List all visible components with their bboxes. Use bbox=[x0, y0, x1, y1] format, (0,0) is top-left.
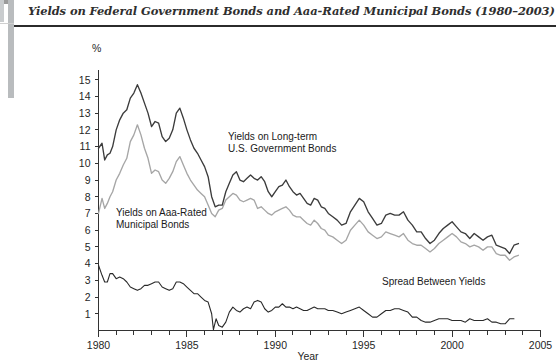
annotation-spread: Spread Between Yields bbox=[382, 276, 485, 287]
annotation-municipal-line1: Yields on Aaa-Rated bbox=[116, 207, 207, 218]
y-tick-label: 7 bbox=[85, 207, 91, 219]
y-axis-tick-labels: 123456789101112131415 bbox=[79, 74, 91, 320]
y-tick-label: 1 bbox=[85, 308, 91, 320]
chart-plot-area: 123456789101112131415 198019851990199520… bbox=[0, 0, 556, 364]
y-tick-label: 13 bbox=[79, 107, 91, 119]
x-tick-label: 2000 bbox=[440, 339, 464, 351]
y-tick-label: 9 bbox=[85, 174, 91, 186]
y-axis-unit-label: % bbox=[92, 42, 101, 54]
y-tick-label: 11 bbox=[80, 140, 91, 152]
y-tick-label: 12 bbox=[79, 124, 91, 136]
y-axis-ticks bbox=[95, 80, 99, 314]
figure-container: Yields on Federal Government Bonds and A… bbox=[0, 0, 556, 364]
y-tick-label: 14 bbox=[79, 90, 91, 102]
y-tick-label: 6 bbox=[85, 224, 91, 236]
annotation-treasury-line1: Yields on Long-term bbox=[228, 131, 317, 142]
axis-lines bbox=[99, 70, 541, 331]
line-chart: 123456789101112131415 198019851990199520… bbox=[0, 0, 556, 364]
annotation-treasury-line2: U.S. Government Bonds bbox=[228, 143, 336, 154]
y-tick-label: 10 bbox=[79, 157, 91, 169]
x-tick-label: 1990 bbox=[264, 339, 288, 351]
x-tick-label: 1995 bbox=[352, 339, 376, 351]
y-tick-label: 4 bbox=[85, 257, 91, 269]
y-tick-label: 3 bbox=[85, 274, 91, 286]
x-axis-title: Year bbox=[297, 350, 319, 362]
x-tick-label: 1980 bbox=[87, 339, 111, 351]
x-axis-tick-labels: 198019851990199520002005 bbox=[87, 339, 553, 351]
y-tick-label: 15 bbox=[79, 74, 91, 86]
series-line-spread bbox=[99, 265, 514, 329]
x-axis-ticks bbox=[99, 331, 541, 337]
x-tick-label: 1985 bbox=[175, 339, 199, 351]
annotation-municipal-line2: Municipal Bonds bbox=[116, 219, 189, 230]
y-tick-label: 8 bbox=[85, 191, 91, 203]
x-tick-label: 2005 bbox=[529, 339, 553, 351]
y-tick-label: 2 bbox=[85, 291, 91, 303]
y-tick-label: 5 bbox=[85, 241, 91, 253]
